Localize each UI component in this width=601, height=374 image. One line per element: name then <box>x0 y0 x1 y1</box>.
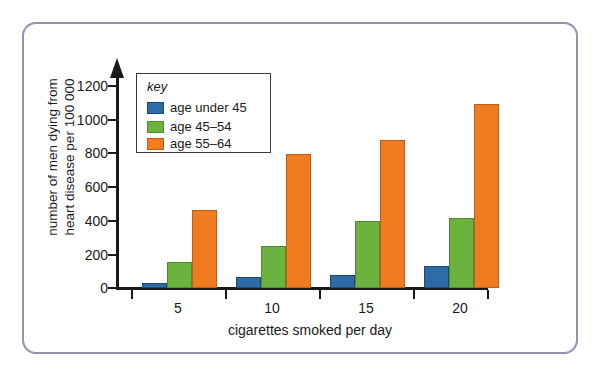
x-tick-mark <box>131 290 133 299</box>
bar-45to54-10 <box>261 246 286 288</box>
legend-swatch-icon <box>147 102 164 114</box>
y-tick-mark <box>108 186 117 188</box>
bar-under45-5 <box>142 283 167 288</box>
y-axis-title: number of men dying from heart disease p… <box>44 40 78 275</box>
y-axis-title-line1: number of men dying from <box>44 40 61 275</box>
y-axis-line <box>116 74 119 289</box>
x-tick-label: 5 <box>148 300 208 316</box>
x-tick-label: 15 <box>336 300 396 316</box>
legend-box: key age under 45 age 45–54 age 55–64 <box>136 73 271 153</box>
x-tick-label: 10 <box>242 300 302 316</box>
bar-under45-10 <box>236 277 261 288</box>
x-tick-label: 20 <box>430 300 490 316</box>
bar-55to64-10 <box>286 154 311 288</box>
legend-label: age 45–54 <box>170 119 231 134</box>
y-tick-mark <box>108 287 117 289</box>
legend-swatch-icon <box>147 121 164 133</box>
y-tick-mark <box>108 85 117 87</box>
x-tick-mark <box>487 290 489 299</box>
x-tick-mark <box>225 290 227 299</box>
bar-55to64-20 <box>474 104 499 288</box>
y-tick-label-wrap: 0 <box>52 280 108 296</box>
bar-55to64-5 <box>192 210 217 288</box>
x-tick-mark <box>413 290 415 299</box>
y-axis-arrow-icon <box>110 58 124 78</box>
bar-under45-20 <box>424 266 449 288</box>
y-tick-mark <box>108 254 117 256</box>
x-tick-mark <box>319 290 321 299</box>
bar-45to54-20 <box>449 218 474 288</box>
figure-canvas: 0 200 400 600 800 1000 1200 <box>0 0 601 374</box>
legend-swatch-icon <box>147 138 164 150</box>
y-tick-mark <box>108 119 117 121</box>
plot-area: 0 200 400 600 800 1000 1200 <box>0 0 601 374</box>
y-axis-title-line2: heart disease per 100 000 <box>61 40 78 275</box>
y-tick-label: 0 <box>62 280 108 296</box>
y-tick-mark <box>108 220 117 222</box>
legend-label: age 55–64 <box>170 136 231 151</box>
bar-55to64-15 <box>380 140 405 288</box>
legend-label: age under 45 <box>170 100 247 115</box>
bar-under45-15 <box>330 275 355 288</box>
legend-title: key <box>147 79 167 94</box>
bar-45to54-15 <box>355 221 380 288</box>
y-tick-mark <box>108 152 117 154</box>
bar-45to54-5 <box>167 262 192 288</box>
x-axis-title: cigarettes smoked per day <box>150 322 470 338</box>
